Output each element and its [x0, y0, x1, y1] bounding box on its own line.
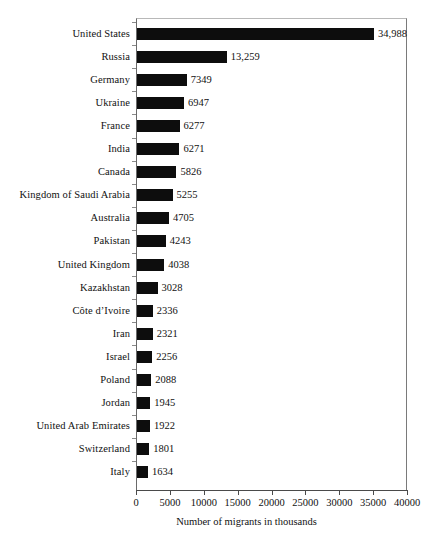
bar: [137, 212, 169, 224]
y-axis-tick: [132, 345, 136, 346]
y-axis-tick: [132, 438, 136, 439]
bar-row: Kingdom of Saudi Arabia5255: [0, 184, 441, 207]
category-label: United States: [72, 28, 130, 40]
bar-value-label: 6947: [188, 97, 209, 109]
x-axis-tick-label: 25000: [292, 497, 318, 509]
x-axis-tick: [272, 490, 273, 495]
category-label: India: [108, 143, 130, 155]
bar-row: France6277: [0, 114, 441, 137]
category-label: Italy: [110, 466, 130, 478]
category-label: Israel: [106, 351, 130, 363]
x-axis-tick: [238, 490, 239, 495]
bar-value-label: 4705: [173, 212, 194, 224]
category-label: Ukraine: [95, 97, 130, 109]
bar-row: Kazakhstan3028: [0, 276, 441, 299]
bar: [137, 51, 227, 63]
bar-value-label: 6271: [183, 143, 204, 155]
bar-value-label: 2256: [156, 351, 177, 363]
x-axis-tick: [373, 490, 374, 495]
bar-value-label: 1945: [154, 397, 175, 409]
bar-value-label: 13,259: [231, 51, 260, 63]
bar-row: United Arab Emirates1922: [0, 415, 441, 438]
category-label: United Kingdom: [58, 259, 130, 271]
y-axis-tick: [132, 415, 136, 416]
bar-row: Ukraine6947: [0, 91, 441, 114]
x-axis-tick-label: 0: [133, 497, 138, 509]
bar-row: United States34,988: [0, 22, 441, 45]
x-axis-tick: [305, 490, 306, 495]
y-axis-tick: [132, 45, 136, 46]
y-axis-tick: [132, 68, 136, 69]
bar: [137, 259, 164, 271]
bar-row: India6271: [0, 138, 441, 161]
migrants-bar-chart: United States34,988Russia13,259Germany73…: [0, 0, 441, 551]
category-label: Pakistan: [94, 235, 130, 247]
bar-value-label: 4243: [170, 235, 191, 247]
bar-value-label: 34,988: [378, 28, 407, 40]
category-label: Australia: [91, 212, 130, 224]
bar: [137, 97, 184, 109]
category-label: Canada: [98, 166, 130, 178]
bar: [137, 189, 173, 201]
bar-value-label: 5826: [180, 166, 201, 178]
bar-row: Iran2321: [0, 322, 441, 345]
bar-value-label: 6277: [184, 120, 205, 132]
bar-value-label: 1801: [153, 443, 174, 455]
bar-row: Jordan1945: [0, 392, 441, 415]
bar-row: Switzerland1801: [0, 438, 441, 461]
y-axis-tick: [132, 253, 136, 254]
category-label: Jordan: [101, 397, 130, 409]
bar: [137, 420, 150, 432]
x-axis-tick: [136, 490, 137, 495]
bar-value-label: 2321: [157, 328, 178, 340]
x-axis-tick: [204, 490, 205, 495]
y-axis-tick: [132, 91, 136, 92]
category-label: Kazakhstan: [80, 282, 130, 294]
x-axis-tick-label: 35000: [360, 497, 386, 509]
x-axis-title: Number of migrants in thousands: [0, 515, 441, 528]
bar: [137, 143, 179, 155]
bar: [137, 120, 180, 132]
bar-value-label: 7349: [191, 74, 212, 86]
bar: [137, 166, 176, 178]
bar: [137, 74, 187, 86]
bar-row: Australia4705: [0, 207, 441, 230]
bar-row: United Kingdom4038: [0, 253, 441, 276]
y-axis-tick: [132, 276, 136, 277]
x-axis-tick-label: 20000: [258, 497, 284, 509]
bar: [137, 397, 150, 409]
x-axis-tick: [407, 490, 408, 495]
category-label: Côte d’Ivoire: [72, 305, 130, 317]
bar-row: Israel2256: [0, 345, 441, 368]
category-label: Switzerland: [79, 443, 130, 455]
bar-value-label: 5255: [177, 189, 198, 201]
bar-row: Germany7349: [0, 68, 441, 91]
y-axis-tick: [132, 369, 136, 370]
bar-row: Côte d’Ivoire2336: [0, 299, 441, 322]
bar: [137, 351, 152, 363]
bar: [137, 466, 148, 478]
y-axis-tick: [132, 22, 136, 23]
x-axis-tick-label: 40000: [394, 497, 420, 509]
bar-row: Russia13,259: [0, 45, 441, 68]
bar: [137, 282, 158, 294]
category-label: Germany: [90, 74, 130, 86]
x-axis-tick-label: 30000: [326, 497, 352, 509]
y-axis-tick: [132, 207, 136, 208]
x-axis-title-text: Number of migrants in thousands: [176, 515, 317, 528]
y-axis-tick: [132, 461, 136, 462]
y-axis-tick: [132, 184, 136, 185]
x-axis-tick: [339, 490, 340, 495]
category-label: France: [101, 120, 130, 132]
y-axis-tick: [132, 392, 136, 393]
x-axis-tick-label: 5000: [159, 497, 180, 509]
bar-value-label: 1922: [154, 420, 175, 432]
bar-value-label: 2088: [155, 374, 176, 386]
y-axis-tick: [132, 299, 136, 300]
bar-row: Pakistan4243: [0, 230, 441, 253]
x-axis-tick: [170, 490, 171, 495]
y-axis-tick: [132, 161, 136, 162]
x-axis-tick-label: 10000: [191, 497, 217, 509]
category-label: United Arab Emirates: [36, 420, 130, 432]
y-axis-tick: [132, 322, 136, 323]
